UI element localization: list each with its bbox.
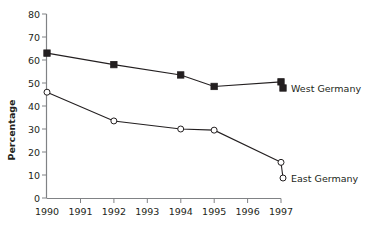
x-tick-label-1996: 1996 [236, 206, 260, 217]
series-layer [44, 50, 286, 181]
legend-marker-east-germany [280, 175, 286, 181]
chart-container: Percentage 80 70 60 50 40 30 20 10 0 [0, 0, 391, 239]
data-point-east-germany-1990 [44, 89, 50, 95]
x-tick-label-1994: 1994 [169, 206, 193, 217]
y-tick-label-40: 40 [28, 101, 40, 112]
data-point-east-germany-1997 [278, 159, 284, 165]
y-tick-label-30: 30 [28, 124, 40, 135]
series-label-east-germany: East Germany [291, 173, 359, 184]
data-point-east-germany-1994 [178, 126, 184, 132]
data-point-east-germany-1995 [211, 127, 217, 133]
data-point-west-germany-1997 [278, 79, 284, 85]
data-point-west-germany-1994 [178, 72, 184, 78]
data-point-west-germany-1992 [111, 61, 117, 67]
x-tick-label-1992: 1992 [102, 206, 126, 217]
x-tick-label-1997: 1997 [269, 206, 293, 217]
series-line-east-germany [47, 92, 281, 162]
x-tick-label-1990: 1990 [35, 206, 59, 217]
y-tick-label-80: 80 [28, 9, 40, 20]
data-point-east-germany-1992 [111, 118, 117, 124]
y-tick-label-60: 60 [28, 55, 40, 66]
x-tick-label-1995: 1995 [202, 206, 226, 217]
y-tick-label-70: 70 [28, 32, 40, 43]
series-line-west-germany [47, 53, 281, 86]
y-tick-label-0: 0 [34, 193, 40, 204]
legend-marker-west-germany [280, 85, 286, 91]
y-tick-label-50: 50 [28, 78, 40, 89]
data-point-west-germany-1990 [44, 50, 50, 56]
x-tick-label-1991: 1991 [68, 206, 92, 217]
y-tick-label-10: 10 [28, 170, 40, 181]
x-tick-label-1993: 1993 [135, 206, 159, 217]
line-chart-canvas: Percentage 80 70 60 50 40 30 20 10 0 [0, 0, 391, 239]
y-axis-label: Percentage [6, 99, 17, 160]
data-point-west-germany-1995 [211, 83, 217, 89]
y-tick-label-20: 20 [28, 147, 40, 158]
series-label-west-germany: West Germany [291, 83, 361, 94]
